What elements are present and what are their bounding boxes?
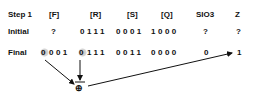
arrow-xor-to-z (88, 53, 232, 86)
arrow-f-to-xor (45, 60, 74, 84)
arrows-overlay (0, 0, 255, 98)
